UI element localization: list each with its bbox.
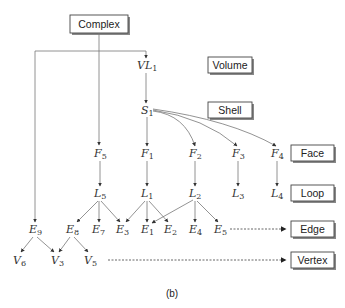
node-E5: E5 <box>213 223 227 237</box>
shell-box-label: Shell <box>218 104 241 116</box>
complex-box-label: Complex <box>78 18 120 30</box>
node-E3: E3 <box>115 223 129 237</box>
edge-box: Edge <box>291 221 336 239</box>
node-F2: F2 <box>188 147 202 161</box>
loop-box-label: Loop <box>301 187 325 199</box>
complex-connectors <box>35 33 146 222</box>
node-E8: E8 <box>65 223 79 237</box>
complex-box: Complex <box>70 15 130 35</box>
node-E2: E2 <box>163 223 177 237</box>
node-E7: E7 <box>91 223 105 237</box>
node-L1: L1 <box>140 187 153 201</box>
node-S1: S1 <box>141 104 154 118</box>
node-E1: E1 <box>140 223 154 237</box>
face-box: Face <box>291 145 336 163</box>
node-F4: F4 <box>270 147 284 161</box>
node-F3: F3 <box>231 147 245 161</box>
node-E9: E9 <box>28 223 42 237</box>
edge-box-label: Edge <box>300 223 325 235</box>
node-VL1: VL1 <box>137 59 157 73</box>
node-L5: L5 <box>93 187 106 201</box>
node-labels: VL1 S1 F5 F1 F2 F3 F4 L5 L1 L2 L3 L4 E9 … <box>13 59 284 268</box>
loop-box: Loop <box>291 185 336 203</box>
node-L4: L4 <box>270 187 283 201</box>
vertex-box-label: Vertex <box>298 254 329 266</box>
vertex-box: Vertex <box>291 252 336 270</box>
node-F5: F5 <box>93 147 107 161</box>
shell-box: Shell <box>208 102 254 120</box>
figure-caption: (b) <box>166 288 178 299</box>
node-L3: L3 <box>231 187 244 201</box>
node-V6: V6 <box>13 254 26 268</box>
node-F1: F1 <box>140 147 154 161</box>
face-box-label: Face <box>301 147 325 159</box>
node-L2: L2 <box>188 187 201 201</box>
topology-hierarchy-diagram: Complex <box>0 0 345 308</box>
node-V3: V3 <box>51 254 64 268</box>
volume-box: Volume <box>208 57 254 75</box>
node-V5: V5 <box>84 254 97 268</box>
volume-box-label: Volume <box>212 59 247 71</box>
node-E4: E4 <box>188 223 202 237</box>
